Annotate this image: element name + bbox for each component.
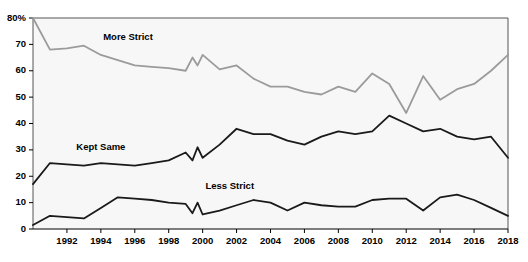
chart-canvas: 01020304050607080%1992199419961998200020… [0,0,528,262]
y-axis-tick-label: 60 [15,64,26,75]
y-axis-tick-label: 20 [15,170,26,181]
x-axis-tick-label: 2012 [396,235,417,246]
y-axis-tick-label: 30 [15,143,26,154]
plot-background [33,18,508,229]
y-axis-tick-label: 40 [15,117,26,128]
x-axis-tick-label: 2002 [226,235,247,246]
x-axis-tick-label: 2014 [430,235,452,246]
x-axis-tick-label: 2016 [464,235,485,246]
x-axis-tick-label: 2006 [294,235,315,246]
x-axis-tick-label: 2000 [192,235,213,246]
y-axis-tick-label: 70 [15,38,26,49]
y-axis-tick-label: 80% [7,12,27,23]
series-label-less-strict: Less Strict [205,180,254,191]
x-axis-tick-label: 1998 [158,235,179,246]
x-axis-tick-label: 1992 [56,235,77,246]
series-label-kept-same: Kept Same [76,141,125,152]
series-label-more-strict: More Strict [103,31,153,42]
y-axis-tick-label: 10 [15,196,26,207]
y-axis-tick-label: 0 [21,223,26,234]
x-axis-tick-label: 2018 [497,235,518,246]
gun-laws-opinion-line-chart: 01020304050607080%1992199419961998200020… [0,0,528,262]
x-axis-tick-label: 1994 [90,235,112,246]
x-axis-tick-label: 1996 [124,235,145,246]
x-axis-tick-label: 2008 [328,235,349,246]
y-axis-tick-label: 50 [15,91,26,102]
x-axis-tick-label: 2010 [362,235,383,246]
x-axis-tick-label: 2004 [260,235,282,246]
